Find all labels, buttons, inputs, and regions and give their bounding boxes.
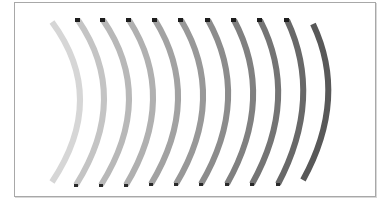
arc-bottom-cap-3 <box>99 184 103 187</box>
arc-top-cap-10 <box>284 18 289 22</box>
arc-top-cap-7 <box>205 18 210 22</box>
arc-bottom-cap-8 <box>225 183 229 186</box>
canvas <box>0 0 392 208</box>
arc-top-cap-6 <box>178 18 183 22</box>
arc-top-cap-9 <box>257 18 262 22</box>
arc-bottom-cap-4 <box>124 184 128 187</box>
arc-bottom-cap-10 <box>276 183 280 186</box>
arc-top-cap-5 <box>152 18 157 22</box>
arc-top-cap-4 <box>126 18 131 22</box>
arc-top-cap-8 <box>231 18 236 22</box>
arc-top-cap-3 <box>100 18 105 22</box>
arc-bottom-cap-6 <box>174 183 178 186</box>
arc-bottom-cap-2 <box>74 184 78 187</box>
arc-stroke-1 <box>52 22 80 182</box>
arc-stroke-11 <box>303 24 328 180</box>
arc-bottom-cap-5 <box>149 183 153 186</box>
arc-bottom-cap-9 <box>250 183 254 186</box>
arc-bottom-cap-7 <box>199 183 203 186</box>
arcs-drawing <box>0 0 392 208</box>
arc-stroke-10 <box>278 20 303 184</box>
arc-top-cap-2 <box>75 18 80 22</box>
